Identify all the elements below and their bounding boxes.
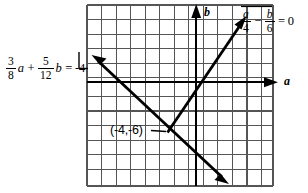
right-hand-side: -4 [75, 62, 85, 75]
numerator: 5 [41, 56, 51, 68]
equals-sign: = [276, 15, 288, 28]
fraction-a-over-four: a 4 [241, 9, 251, 34]
plus-operator: + [25, 62, 37, 75]
equals-sign: = [63, 62, 75, 75]
numerator: a [241, 9, 251, 21]
numerator: b [265, 9, 275, 21]
graph-figure: b a (-4,-6) 3 8 a + 5 12 b = -4 a 4 − b … [0, 0, 308, 193]
fraction-b-over-six: b 6 [265, 9, 275, 34]
right-hand-side: 0 [288, 15, 294, 28]
line-2-path [168, 16, 247, 133]
denominator: 12 [38, 68, 54, 81]
denominator: 6 [265, 21, 275, 34]
variable-a: a [17, 62, 25, 75]
x-axis-label: a [284, 75, 290, 87]
equation-label-line-2: a 4 − b 6 = 0 [240, 9, 294, 34]
point-leader-line [151, 131, 166, 132]
fraction-five-twelfths: 5 12 [38, 56, 54, 81]
denominator: 4 [241, 21, 251, 34]
numerator: 3 [6, 56, 16, 68]
y-axis-label: b [204, 6, 210, 18]
minus-operator: − [252, 15, 264, 28]
fraction-three-eighths: 3 8 [6, 56, 16, 81]
denominator: 8 [6, 68, 16, 81]
equation-label-line-1: 3 8 a + 5 12 b = -4 [5, 56, 85, 81]
intersection-point-label: (-4,-6) [110, 124, 143, 137]
variable-b: b [55, 62, 63, 75]
